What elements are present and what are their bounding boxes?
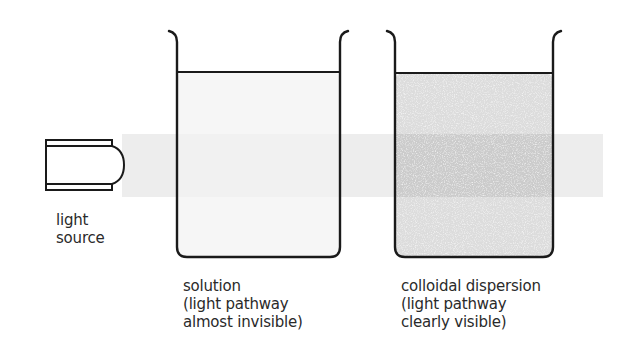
colloid-label-line-3: clearly visible) <box>401 313 541 331</box>
colloid-label-line-1: colloidal dispersion <box>401 277 541 295</box>
solution-light-path <box>177 134 340 197</box>
light-source-icon <box>45 139 124 191</box>
solution-label: solution (light pathway almost invisible… <box>183 277 303 331</box>
beaker-solution <box>169 31 348 257</box>
light-source-label: light source <box>56 211 105 247</box>
solution-label-line-2: (light pathway <box>183 295 303 313</box>
light-source-label-line-2: source <box>56 229 105 247</box>
colloid-label-line-2: (light pathway <box>401 295 541 313</box>
colloid-light-path <box>396 134 552 197</box>
solution-label-line-3: almost invisible) <box>183 313 303 331</box>
light-source-label-line-1: light <box>56 211 105 229</box>
colloid-label: colloidal dispersion (light pathway clea… <box>401 277 541 331</box>
beaker-colloid <box>387 31 561 257</box>
tyndall-effect-diagram: light source solution (light pathway alm… <box>0 0 632 355</box>
solution-label-line-1: solution <box>183 277 303 295</box>
